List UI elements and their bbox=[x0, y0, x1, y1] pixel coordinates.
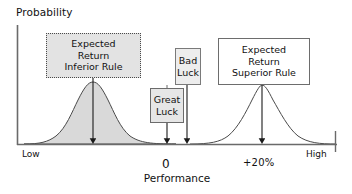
annotation-line: Superior Rule bbox=[232, 67, 296, 79]
annotation-line: Return bbox=[78, 50, 110, 62]
annotation-line: Bad bbox=[179, 55, 197, 67]
x-tick-label-low: Low bbox=[22, 150, 40, 159]
annotation-box-superior-rule: Expected Return Superior Rule bbox=[218, 38, 310, 85]
y-axis-title: Probability bbox=[16, 7, 73, 18]
x-axis-title: Performance bbox=[1, 173, 352, 184]
annotation-box-inferior-rule: Expected Return Inferior Rule bbox=[46, 33, 141, 78]
x-tick-label-plus-twenty: +20% bbox=[243, 158, 274, 169]
annotation-box-great-luck: Great Luck bbox=[150, 88, 184, 123]
x-tick-label-zero: 0 bbox=[162, 158, 170, 171]
annotation-line: Luck bbox=[177, 67, 199, 79]
annotation-line: Luck bbox=[156, 106, 178, 118]
superior-distribution-curve bbox=[190, 85, 336, 144]
probability-distribution-figure: Probability Performance Low 0 +20% High … bbox=[0, 0, 352, 194]
annotation-line: Great bbox=[154, 94, 180, 106]
annotation-box-bad-luck: Bad Luck bbox=[175, 48, 201, 85]
annotation-line: Expected bbox=[71, 38, 115, 50]
annotation-line: Expected bbox=[242, 44, 286, 56]
annotation-line: Inferior Rule bbox=[65, 61, 123, 73]
annotation-line: Return bbox=[248, 56, 280, 68]
x-tick-label-high: High bbox=[306, 150, 327, 159]
